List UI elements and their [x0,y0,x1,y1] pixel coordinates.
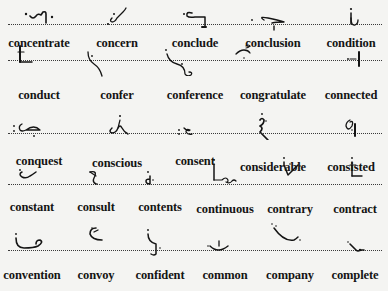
conclude-outline [156,0,234,34]
word-label: common [192,268,258,283]
word-label: contents [128,200,192,215]
conscious-outline [78,108,156,142]
word-label: continuous [192,202,258,217]
entry-condition: condition [312,0,388,48]
word-label: consult [64,200,128,215]
contents-outline [128,160,192,194]
entry-convoy: convoy [64,222,128,270]
consent-outline [156,110,234,144]
congratulate-outline [234,34,312,68]
entry-consult: consult [64,168,128,216]
conference-outline [156,42,234,76]
concern-outline [78,0,156,34]
entry-conference: conference [156,48,234,96]
entry-company: company [258,222,322,270]
outline-row-3: conquest conscious consent co [0,96,388,144]
entry-connected: connected [312,48,388,96]
entry-consisted: consisted [312,96,388,144]
entry-confident: confident [128,222,192,270]
common-outline [192,226,258,260]
confer-outline [78,44,156,78]
entry-convention: convention [0,222,64,270]
condition-outline [312,0,388,34]
entry-conquest: conquest [0,96,78,144]
entry-common: common [192,222,258,270]
outline-row-4: constant consult contents con [0,168,388,216]
outline-row-5: convention convoy confident c [0,222,388,270]
entry-conscious: conscious [78,96,156,144]
entry-contents: contents [128,168,192,216]
word-label: complete [322,268,388,283]
word-label: constant [0,200,64,215]
entry-continuous: continuous [192,168,258,216]
convention-outline [0,226,64,260]
word-label: contract [322,202,388,217]
complete-outline [322,228,388,262]
concentrate-outline [0,0,78,34]
connected-outline [312,42,388,76]
continuous-outline [192,154,258,188]
entry-consent: consent [156,96,234,144]
conclusion-outline [234,0,312,34]
contract-outline [322,148,388,182]
constant-outline [0,160,64,194]
contrary-outline [258,148,322,182]
entry-concern: concern [78,0,156,48]
confident-outline [128,224,192,258]
conduct-outline [0,40,78,74]
outline-row-2: conduct confer conference congratulate [0,48,388,96]
entry-complete: complete [322,222,388,270]
entry-considerable: considerable [234,96,312,144]
consisted-outline [312,108,388,142]
entry-conduct: conduct [0,48,78,96]
considerable-outline [234,106,312,140]
company-outline [258,214,322,248]
convoy-outline [64,218,128,252]
entry-conclude: conclude [156,0,234,48]
entry-contract: contract [322,168,388,216]
conquest-outline [0,110,78,144]
word-label: convention [0,268,64,283]
shorthand-page: concentrate concern conclude [0,0,388,291]
entry-constant: constant [0,168,64,216]
consult-outline [64,160,128,194]
entry-contrary: contrary [258,168,322,216]
entry-confer: confer [78,48,156,96]
word-label: confident [128,268,192,283]
entry-congratulate: congratulate [234,48,312,96]
word-label: convoy [64,268,128,283]
word-label: company [258,268,322,283]
